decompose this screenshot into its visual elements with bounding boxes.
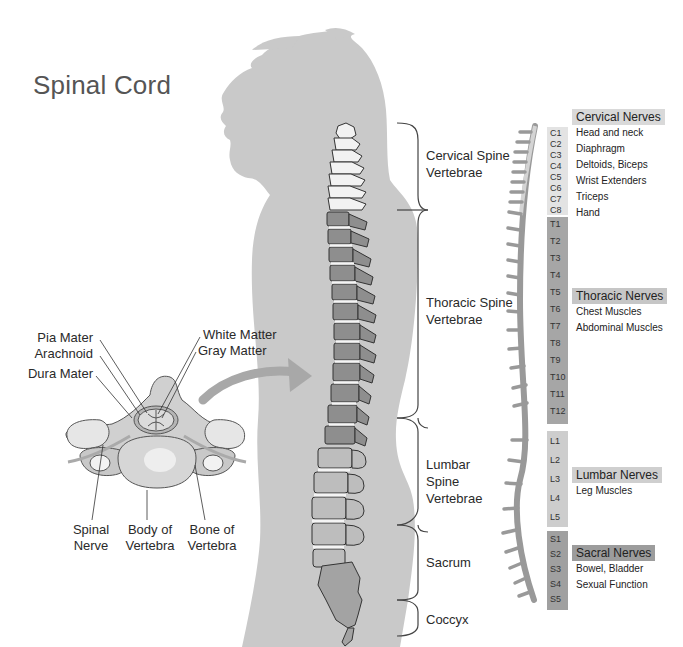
segment-c6: C6 — [547, 183, 568, 193]
segment-c4: C4 — [547, 161, 568, 171]
segment-t6: T6 — [547, 304, 568, 314]
nerve-function-item: Bowel, Bladder — [576, 561, 643, 576]
segment-s3: S3 — [547, 564, 568, 574]
nerve-function-item: Chest Muscles — [576, 304, 642, 319]
segment-t5: T5 — [547, 287, 568, 297]
label-white-matter: White Matter — [203, 327, 277, 343]
segment-s1: S1 — [547, 534, 568, 544]
nerve-function-item: Sexual Function — [576, 577, 648, 592]
region-cervical: Cervical Spine Vertebrae — [426, 147, 510, 181]
segment-group-lumbar: L1 L2 L3 L4 L5 — [547, 431, 568, 527]
segment-group-cervical: C1 C2 C3 C4 C5 C6 C7 C8 — [547, 127, 568, 215]
spinal-cord-schematic — [503, 126, 535, 600]
segment-s4: S4 — [547, 579, 568, 589]
segment-t4: T4 — [547, 270, 568, 280]
segment-s2: S2 — [547, 549, 568, 559]
segment-l2: L2 — [547, 455, 568, 465]
segment-l3: L3 — [547, 474, 568, 484]
region-lumbar: Lumbar Spine Vertebrae — [426, 456, 482, 507]
heading-thoracic-nerves: Thoracic Nerves — [572, 288, 667, 304]
label-body-of-vertebra: Body of Vertebra — [122, 522, 178, 554]
segment-c1: C1 — [547, 128, 568, 138]
segment-group-sacral: S1 S2 S3 S4 S5 — [547, 531, 568, 610]
label-bone-of-vertebra: Bone of Vertebra — [184, 522, 240, 554]
vertebra-cross-section — [66, 376, 246, 488]
heading-cervical-nerves: Cervical Nerves — [572, 109, 665, 125]
segment-c8: C8 — [547, 205, 568, 215]
nerve-function-item: Wrist Extenders — [576, 173, 646, 188]
segment-t12: T12 — [547, 406, 568, 416]
segment-s5: S5 — [547, 594, 568, 604]
segment-c5: C5 — [547, 172, 568, 182]
nerve-function-item: Hand — [576, 205, 600, 220]
segment-c3: C3 — [547, 150, 568, 160]
segment-l4: L4 — [547, 493, 568, 503]
label-pia-mater: Pia Mater — [37, 330, 93, 346]
label-arachnoid: Arachnoid — [34, 346, 93, 362]
segment-group-thoracic: T1 T2 T3 T4 T5 T6 T7 T8 T9 T10 T11 T12 — [547, 217, 568, 424]
nerve-function-item: Head and neck — [576, 125, 643, 140]
segment-c2: C2 — [547, 139, 568, 149]
segment-l5: L5 — [547, 512, 568, 522]
region-sacrum: Sacrum — [426, 554, 471, 571]
segment-t3: T3 — [547, 253, 568, 263]
segment-t11: T11 — [547, 389, 568, 399]
label-gray-matter: Gray Matter — [198, 343, 267, 359]
region-coccyx: Coccyx — [426, 611, 469, 628]
segment-t7: T7 — [547, 321, 568, 331]
segment-c7: C7 — [547, 194, 568, 204]
label-spinal-nerve: Spinal Nerve — [68, 522, 114, 554]
nerve-function-item: Diaphragm — [576, 141, 625, 156]
segment-t9: T9 — [547, 355, 568, 365]
page-title: Spinal Cord — [33, 70, 171, 101]
label-dura-mater: Dura Mater — [28, 366, 93, 382]
heading-sacral-nerves: Sacral Nerves — [572, 545, 655, 561]
region-thoracic: Thoracic Spine Vertebrae — [426, 294, 513, 328]
segment-t8: T8 — [547, 338, 568, 348]
segment-t1: T1 — [547, 219, 568, 229]
nerve-function-item: Leg Muscles — [576, 483, 632, 498]
segment-t2: T2 — [547, 236, 568, 246]
nerve-function-item: Triceps — [576, 189, 608, 204]
segment-t10: T10 — [547, 372, 568, 382]
segment-l1: L1 — [547, 436, 568, 446]
nerve-function-item: Deltoids, Biceps — [576, 157, 648, 172]
nerve-function-item: Abdominal Muscles — [576, 320, 663, 335]
heading-lumbar-nerves: Lumbar Nerves — [572, 467, 662, 483]
